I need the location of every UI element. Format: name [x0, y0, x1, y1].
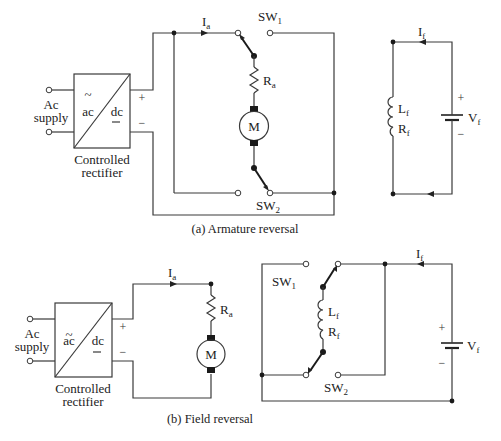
output-minus-sign: −	[120, 345, 127, 359]
switch-sw2: SW2	[235, 165, 280, 215]
switch-sw2: SW2	[303, 349, 348, 397]
output-plus-sign: +	[139, 91, 146, 105]
junction-dot	[383, 262, 388, 267]
controlled-rectifier: ~ ac dc Controlled rectifier	[74, 74, 130, 180]
caption-armature-reversal: (a) Armature reversal	[192, 222, 299, 236]
field-inductance-label: Lf	[328, 304, 339, 321]
sw2-terminal-left	[303, 372, 309, 378]
diagram-field-reversal: Ac supply ~ ac dc Controlled rectifier +…	[15, 246, 480, 426]
ac-supply-label-line2: supply	[34, 110, 69, 125]
diagram-armature-reversal: Ac supply ~ ac dc Controlled rectifier +…	[34, 9, 481, 236]
rectifier-ac-label: ac	[63, 333, 75, 348]
sw2-label: SW2	[324, 380, 348, 397]
sw2-terminal-right	[335, 372, 341, 378]
field-inductance-label: Lf	[398, 101, 409, 118]
output-plus-sign: +	[120, 320, 127, 334]
armature-resistance-label: Ra	[220, 302, 233, 319]
field-plus-sign: +	[458, 91, 465, 105]
caption-field-reversal: (b) Field reversal	[167, 412, 254, 426]
rectifier-dc-label: dc	[92, 333, 105, 348]
ac-terminal-bottom	[27, 358, 33, 364]
rectifier-label-line2: rectifier	[62, 394, 104, 409]
field-circuit-b: SW1 Lf Rf SW2 + − Vf	[260, 246, 480, 403]
sw2-terminal-right	[267, 190, 273, 196]
field-inductor-icon	[388, 97, 393, 136]
ac-supply-label-line2: supply	[15, 339, 50, 354]
field-resistance-label: Rf	[398, 121, 410, 138]
junction-dot	[172, 31, 177, 36]
field-resistance-label: Rf	[328, 324, 340, 341]
field-plus-sign: +	[439, 321, 446, 335]
resistor-ra-icon	[207, 295, 215, 321]
armature-loop: Ia Ra M	[112, 265, 233, 398]
field-voltage-label: Vf	[467, 338, 479, 355]
current-arrow-icon	[427, 191, 434, 197]
armature-resistance-label: Ra	[263, 73, 276, 90]
switch-pivot-dot	[320, 349, 326, 355]
switch-sw1: SW1	[235, 9, 282, 59]
motor-label: M	[248, 119, 260, 134]
reversal-circuits-figure: Ac supply ~ ac dc Controlled rectifier +…	[0, 0, 501, 441]
junction-dot	[391, 40, 396, 45]
field-current-label: If	[416, 246, 423, 263]
ac-terminal-bottom	[46, 129, 52, 135]
rectifier-ac-symbol: ~	[84, 87, 91, 102]
junction-dot	[209, 282, 214, 287]
field-voltage-label: Vf	[468, 110, 480, 127]
ac-supply: Ac supply	[15, 316, 55, 364]
ac-terminal-top	[27, 316, 33, 322]
sw1-label: SW1	[258, 9, 282, 26]
field-circuit-a: Lf Rf + − Vf If	[388, 24, 480, 197]
armature-wiring: Ia	[130, 14, 336, 215]
controlled-rectifier: ~ ac dc Controlled rectifier	[55, 303, 112, 409]
field-current-label: If	[418, 24, 425, 41]
switch-sw1: SW1	[272, 261, 341, 291]
sw2-terminal-left	[235, 190, 241, 196]
junction-dot	[391, 192, 396, 197]
field-inductor-icon	[318, 300, 323, 339]
armature-current-label: Ia	[168, 265, 176, 282]
junction-dot	[260, 373, 265, 378]
junction-dot	[332, 191, 337, 196]
sw1-terminal-left	[303, 261, 309, 267]
ac-supply: Ac supply	[34, 87, 74, 135]
armature-current-label: Ia	[202, 14, 210, 31]
switch-pivot-dot	[251, 165, 257, 171]
rectifier-ac-label: ac	[82, 104, 94, 119]
field-minus-sign: −	[458, 127, 465, 141]
rectifier-label-line2: rectifier	[81, 165, 123, 180]
junction-dot	[450, 399, 455, 404]
sw1-terminal-right	[267, 30, 273, 36]
sw1-label: SW1	[272, 274, 296, 291]
sw2-label: SW2	[256, 198, 280, 215]
output-minus-sign: −	[139, 116, 146, 130]
resistor-ra-icon	[250, 67, 258, 93]
ac-terminal-top	[46, 87, 52, 93]
armature-branch: Ra M	[240, 56, 276, 168]
field-minus-sign: −	[439, 356, 446, 370]
rectifier-dc-label: dc	[111, 104, 124, 119]
motor-label: M	[205, 347, 217, 362]
